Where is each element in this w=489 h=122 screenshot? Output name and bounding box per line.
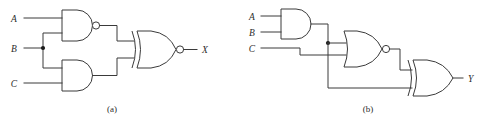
wire-b-c-input [261,48,346,55]
caption-a: (a) [107,104,117,114]
input-label-a: A [10,14,17,24]
and-gate-body-b [281,9,311,39]
wire-and-out [93,58,135,76]
output-label-y: Y [468,74,475,84]
wire-b-branch-down [43,48,62,68]
output-label-x: X [201,45,209,55]
xor-gate-body [413,60,453,96]
input-label-b-c: C [249,44,256,54]
wire-nor-out [390,49,412,70]
circuit-b-group: A B C Y (b) [248,9,475,114]
wire-xor-lower-in [328,43,412,88]
circuit-a-group: A B C X (a) [10,10,209,114]
xnor-gate-bubble-icon [176,46,183,53]
nor-gate-body [344,31,382,67]
wire-and-out-b [311,24,328,43]
input-label-b-a: A [248,12,255,22]
xnor-gate-back-arc [132,31,136,68]
input-label-b: B [11,44,17,54]
nor-gate-bubble-icon [382,45,389,52]
xnor-gate-body [137,31,176,68]
and-gate-body [62,60,92,91]
nand-gate-body [62,10,92,41]
nand-gate-bubble-icon [92,22,99,29]
circuit-diagram-canvas: A B C X (a) [0,0,489,122]
figure-logic-circuits: A B C X (a) [0,0,489,122]
junction-dot-b [41,46,45,50]
xor-gate-back-arc [408,60,412,96]
input-label-c: C [11,79,18,89]
wire-b-branch-up [43,33,62,48]
caption-b: (b) [363,104,374,114]
wire-nand-out [100,26,134,42]
input-label-b-b: B [249,28,255,38]
